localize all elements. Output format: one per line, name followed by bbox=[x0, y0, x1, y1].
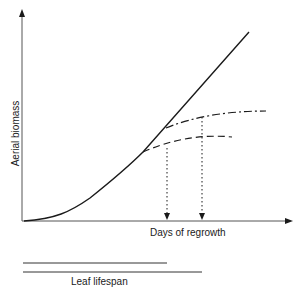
biomass-diagram bbox=[0, 0, 299, 295]
short-lifespan-marker bbox=[164, 148, 170, 220]
long-lifespan-marker bbox=[199, 117, 205, 220]
down-arrow-icon bbox=[199, 213, 205, 220]
curve-biomass-short-lifespan bbox=[143, 136, 232, 152]
x-axis bbox=[22, 218, 293, 224]
y-axis-arrow-icon bbox=[19, 9, 25, 17]
leaf-lifespan-label: Leaf lifespan bbox=[71, 276, 128, 287]
down-arrow-icon bbox=[164, 213, 170, 220]
curve-total-biomass bbox=[24, 32, 249, 221]
curve-biomass-long-lifespan bbox=[166, 111, 266, 128]
y-axis-label: Aerial biomass bbox=[10, 97, 21, 171]
x-axis-label: Days of regrowth bbox=[150, 227, 226, 238]
x-axis-arrow-icon bbox=[285, 218, 293, 224]
